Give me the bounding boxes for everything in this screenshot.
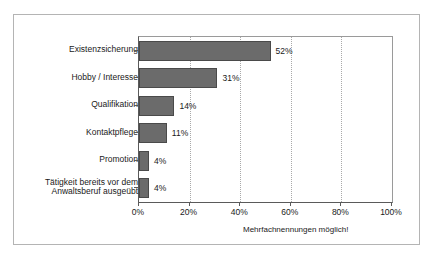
- category-label: Qualifikation: [14, 100, 144, 110]
- bar: [139, 41, 271, 61]
- category-label: Kontaktpflege: [14, 128, 144, 138]
- x-tick-mark: [138, 202, 139, 206]
- bar-row: 14%: [139, 96, 392, 116]
- chart-annotation: Mehrfachnennungen möglich!: [243, 226, 348, 234]
- y-tick-mark: [134, 132, 138, 133]
- x-tick-mark: [239, 202, 240, 206]
- x-tick-label: 80%: [332, 208, 349, 217]
- x-tick-mark: [290, 202, 291, 206]
- x-tick-label: 100%: [380, 208, 402, 217]
- category-label: Promotion: [14, 155, 144, 165]
- bar: [139, 68, 217, 88]
- x-tick-mark: [391, 202, 392, 206]
- x-tick-label: 40%: [231, 208, 248, 217]
- y-tick-mark: [134, 105, 138, 106]
- bar-value-label: 52%: [276, 47, 293, 56]
- bar-value-label: 14%: [179, 102, 196, 111]
- bar-row: 31%: [139, 68, 392, 88]
- x-tick-label: 20%: [180, 208, 197, 217]
- bar: [139, 96, 174, 116]
- x-tick-label: 60%: [281, 208, 298, 217]
- y-tick-mark: [134, 187, 138, 188]
- x-tick-mark: [189, 202, 190, 206]
- chart-figure: 52%31%14%11%4%4% ExistenzsicherungHobby …: [13, 14, 420, 245]
- category-label: Existenzsicherung: [14, 45, 144, 55]
- category-label: Hobby / Interesse: [14, 73, 144, 83]
- category-label: Tätigkeit bereits vor dem Anwaltsberuf a…: [14, 178, 144, 197]
- bar-value-label: 4%: [154, 184, 166, 193]
- bar-row: 11%: [139, 123, 392, 143]
- y-tick-mark: [134, 50, 138, 51]
- y-tick-mark: [134, 77, 138, 78]
- bar-series: 52%31%14%11%4%4%: [139, 37, 392, 202]
- bar-value-label: 4%: [154, 157, 166, 166]
- bar-row: 52%: [139, 41, 392, 61]
- bar-row: 4%: [139, 151, 392, 171]
- plot-area: 52%31%14%11%4%4%: [138, 36, 393, 203]
- x-tick-mark: [340, 202, 341, 206]
- bar-value-label: 11%: [172, 129, 188, 138]
- x-tick-label: 0%: [132, 208, 144, 217]
- bar-value-label: 31%: [222, 74, 239, 83]
- bar-row: 4%: [139, 178, 392, 198]
- y-tick-mark: [134, 160, 138, 161]
